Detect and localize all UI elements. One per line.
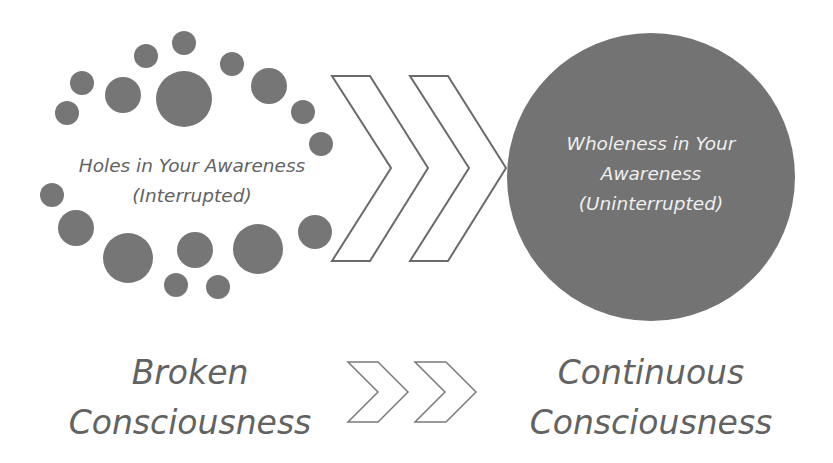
continuous-label-line2: Consciousness <box>530 403 773 442</box>
dot <box>309 132 333 156</box>
dot <box>55 101 79 125</box>
wholeness-label-line3: (Uninterrupted) <box>579 193 723 214</box>
holes-label-line1: Holes in Your Awareness <box>79 155 306 176</box>
dot <box>105 77 141 113</box>
dot <box>291 100 315 124</box>
dot <box>103 233 153 283</box>
wholeness-label-line2: Awareness <box>600 163 702 184</box>
chevron-right-icon <box>415 362 476 422</box>
dot <box>58 210 94 246</box>
continuous-label-line1: Continuous <box>558 353 744 392</box>
diagram-canvas: Holes in Your Awareness (Interrupted) Wh… <box>0 0 833 463</box>
small-chevrons <box>348 362 476 422</box>
broken-label-line2: Consciousness <box>69 403 312 442</box>
dot <box>206 275 230 299</box>
dot <box>172 31 196 55</box>
chevron-right-icon <box>332 76 428 261</box>
dot <box>70 71 94 95</box>
dot <box>220 52 244 76</box>
broken-label-line1: Broken <box>132 353 249 392</box>
large-chevrons <box>332 76 506 261</box>
chevron-right-icon <box>348 362 408 422</box>
dot <box>251 68 287 104</box>
dot <box>134 44 158 68</box>
dot <box>156 71 212 127</box>
dot <box>177 232 213 268</box>
holes-label-line2: (Interrupted) <box>132 185 251 206</box>
wholeness-label-line1: Wholeness in Your <box>567 133 737 154</box>
dot <box>164 273 188 297</box>
dot <box>40 183 64 207</box>
dot <box>233 224 283 274</box>
dot <box>298 215 332 249</box>
